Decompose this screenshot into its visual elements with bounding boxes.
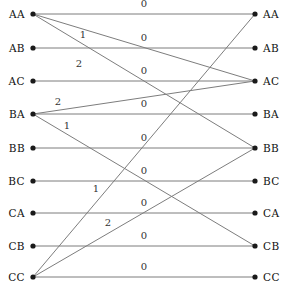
node-label-l-ac: AC [8,75,25,87]
node-label-l-bb: BB [9,142,25,154]
edge-label: 0 [141,261,147,272]
edge-label: 0 [141,32,147,43]
node-dot-l-ca[interactable] [30,210,35,215]
edge-label: 2 [76,58,82,69]
node-label-r-bc: BC [263,175,280,187]
node-label-r-ac: AC [262,75,279,87]
node-label-r-ab: AB [262,42,279,54]
edge-label: 0 [141,230,147,241]
edge-label: 2 [55,96,61,107]
node-dot-r-cb[interactable] [252,243,257,248]
node-label-l-cc: CC [8,271,25,283]
edge-label: 0 [141,98,147,109]
node-dot-r-bc[interactable] [252,178,257,183]
edge-label: 1 [93,183,99,194]
edge-label: 0 [141,132,147,143]
node-label-r-cc: CC [263,271,280,283]
node-dot-r-ca[interactable] [252,210,257,215]
node-dot-l-aa[interactable] [30,11,35,16]
edge-label: 1 [80,29,86,40]
node-dot-r-ab[interactable] [252,45,257,50]
node-dot-l-ac[interactable] [30,78,35,83]
node-label-l-aa: AA [8,8,25,20]
node-dot-l-bb[interactable] [30,145,35,150]
node-dot-r-bb[interactable] [252,145,257,150]
edge-labels-layer: 000000000122112 [55,0,147,272]
node-label-l-ab: AB [8,42,25,54]
node-dot-l-ab[interactable] [30,45,35,50]
edge-label: 2 [105,217,111,228]
node-label-r-bb: BB [263,142,279,154]
node-dot-r-ba[interactable] [252,111,257,116]
node-dot-l-cb[interactable] [30,243,35,248]
edge-label: 0 [141,0,147,9]
diagram-canvas: AAABACBABBBCCACBCCAAABACBABBBCCACBCC 000… [0,0,289,293]
node-label-r-ba: BA [263,108,279,120]
node-label-r-aa: AA [262,8,279,20]
edge-label: 0 [141,165,147,176]
node-label-r-ca: CA [263,207,279,219]
node-label-l-ba: BA [9,108,25,120]
node-dot-l-cc[interactable] [30,274,35,279]
node-dot-l-ba[interactable] [30,111,35,116]
edge-label: 0 [141,65,147,76]
node-dot-r-ac[interactable] [252,78,257,83]
bipartite-graph: AAABACBABBBCCACBCCAAABACBABBBCCACBCC 000… [0,0,289,293]
node-dot-l-bc[interactable] [30,178,35,183]
node-label-l-cb: CB [8,240,25,252]
node-label-l-ca: CA [9,207,25,219]
node-dot-r-aa[interactable] [252,11,257,16]
edge-label: 1 [64,120,70,131]
node-dot-r-cc[interactable] [252,274,257,279]
node-label-l-bc: BC [8,175,25,187]
node-label-r-cb: CB [263,240,280,252]
edge-label: 0 [141,197,147,208]
